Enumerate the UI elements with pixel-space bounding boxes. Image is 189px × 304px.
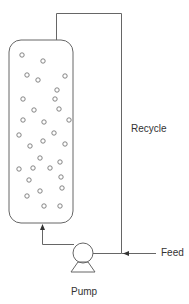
recycle-label: Recycle [131,123,167,134]
bubble-icon [42,204,46,208]
bubble-icon [57,107,61,111]
bubble-icon [36,78,40,82]
bubble-icon [38,156,42,160]
bubble-icon [42,120,46,124]
bubble-icon [41,59,45,63]
bubble-icon [17,133,21,137]
bubble-icon [48,166,52,170]
reactor-vessel [9,40,73,223]
bubble-icon [58,160,62,164]
process-diagram [0,0,189,304]
bubble-icon [63,142,67,146]
bubble-icon [52,131,56,135]
bubble-icon [25,73,29,77]
bubble-icon [55,88,59,92]
feed-arrow-icon [123,251,129,256]
bubble-icon [41,139,45,143]
bubble-icon [20,53,24,57]
inlet-arrow-icon [40,224,45,230]
pump-label: Pump [71,286,97,297]
bubble-icon [28,144,32,148]
bubble-icon [59,175,63,179]
recycle-line [57,14,122,254]
bubble-icon [58,204,62,208]
pump-icon [73,243,93,263]
bubble-icon [31,166,35,170]
bubble-icon [63,74,67,78]
bubble-icon [21,97,25,101]
bubble-icon [21,118,25,122]
bubble-icon [25,194,29,198]
bubble-icon [27,178,31,182]
bubbles [17,53,71,208]
feed-label: Feed [161,247,184,258]
bubble-icon [53,97,57,101]
bubble-icon [60,186,64,190]
bubble-icon [17,167,21,171]
bubble-icon [38,189,42,193]
bubble-icon [32,108,36,112]
bubble-icon [67,118,71,122]
pump-discharge-line [43,228,75,245]
